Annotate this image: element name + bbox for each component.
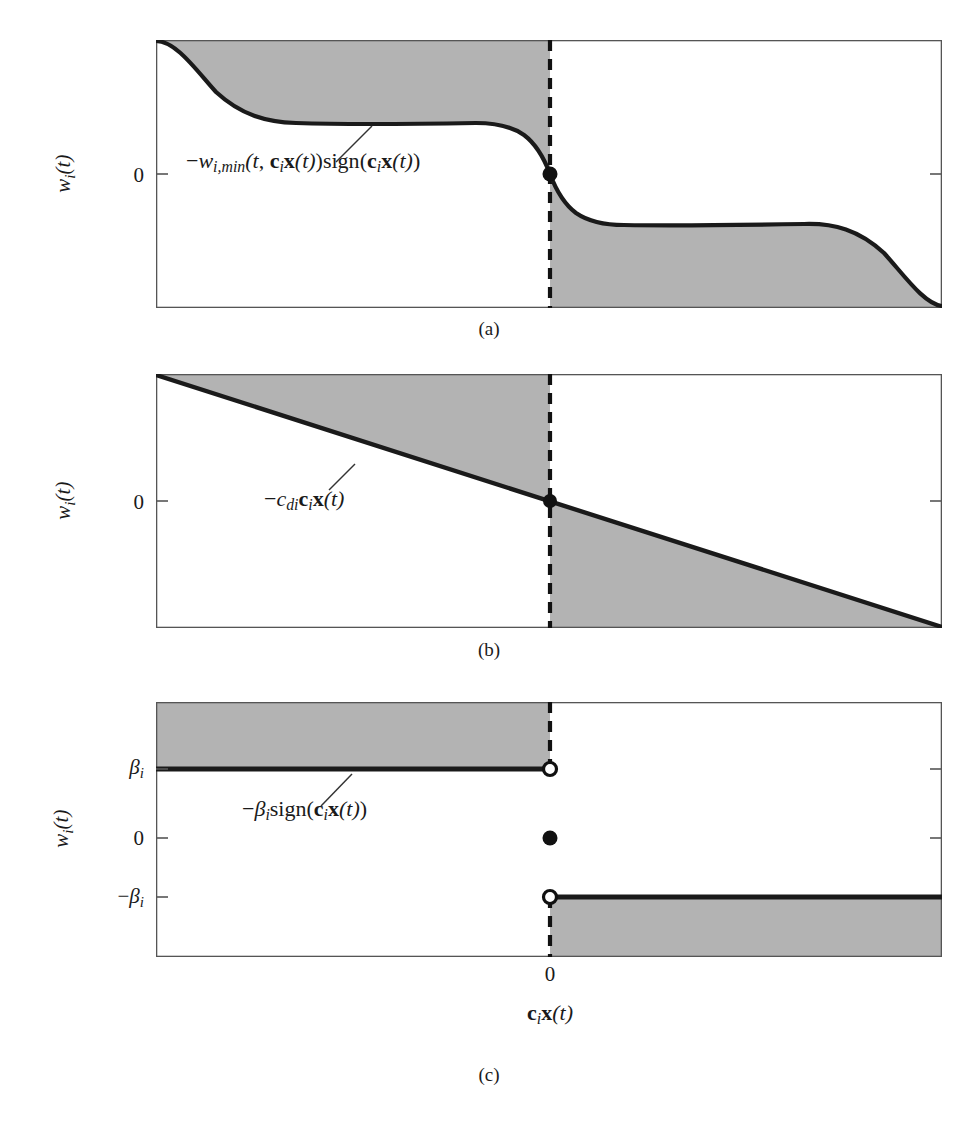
panel-a-y-axis-title-text: wi(t): [51, 155, 75, 193]
panel-b-curve-label-text: −cdicix(t): [264, 486, 344, 511]
shaded-region-right: [550, 897, 942, 956]
panel-a-curve-label: −wi,min(t, cix(t))sign(cix(t)): [186, 148, 420, 176]
origin-filled-marker: [543, 167, 558, 182]
panel-a-caption: (a): [459, 318, 519, 340]
panel-c-caption: (c): [459, 1064, 519, 1086]
panel-c-plot: [156, 702, 942, 957]
figure-container: wi(t) 0 −wi,min(t, cix(t))sign(cix(t)) (…: [0, 0, 979, 1131]
panel-c-curve-label: −βisign(cix(t)): [242, 796, 367, 824]
panel-c-y-axis-title: wi(t): [49, 774, 76, 884]
panel-b-ytick-label-zero: 0: [110, 490, 144, 515]
panel-a-curve-label-text: −wi,min(t, cix(t))sign(cix(t)): [186, 148, 420, 173]
panel-c-ytick-label-zero: 0: [104, 826, 144, 851]
panel-a-y-axis-title: wi(t): [51, 119, 78, 229]
panel-c-ytick-label-beta: βi: [86, 755, 144, 782]
origin-filled-marker: [543, 494, 557, 508]
open-marker-positive-beta: [544, 763, 557, 776]
panel-b-y-axis-title-text: wi(t): [51, 482, 75, 520]
open-marker-negative-beta: [544, 891, 557, 904]
panel-b-y-axis-title: wi(t): [51, 446, 78, 556]
shaded-region-left: [156, 703, 550, 769]
panel-c-ytick-label-beta-text: βi: [129, 755, 144, 779]
panel-b-caption: (b): [459, 639, 519, 661]
panel-c-ytick-label-negbeta: −βi: [66, 884, 144, 911]
shaded-region-right: [550, 174, 942, 307]
x-axis-title-text: cix(t): [527, 1000, 573, 1025]
origin-filled-marker: [543, 831, 558, 846]
panel-b-curve-label: −cdicix(t): [264, 486, 344, 514]
panel-c: [156, 702, 942, 957]
panel-c-curve-label-text: −βisign(cix(t)): [242, 796, 367, 821]
panel-a-ytick-label-zero: 0: [110, 163, 144, 188]
panel-c-y-axis-title-text: wi(t): [49, 810, 73, 848]
panel-c-xtick-label-zero: 0: [520, 962, 580, 987]
x-axis-title: cix(t): [470, 1000, 630, 1028]
panel-c-ytick-label-negbeta-text: −βi: [117, 884, 144, 908]
